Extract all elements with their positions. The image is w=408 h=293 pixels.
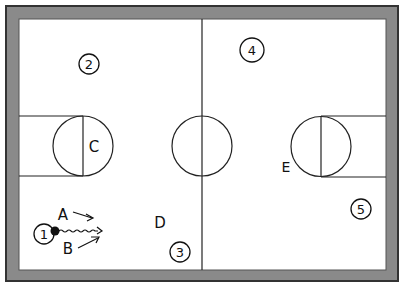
marker-c: C (89, 138, 99, 156)
player-1: 1 (34, 224, 54, 244)
player-1-label: 1 (40, 227, 48, 242)
player-2-label: 2 (85, 57, 93, 72)
player-5-label: 5 (357, 202, 365, 217)
basketball-court-diagram: 1 2 3 4 5 A B C D E (0, 0, 408, 293)
marker-b: B (63, 240, 73, 258)
ball-icon (51, 227, 60, 236)
marker-e: E (282, 159, 291, 175)
marker-a: A (58, 206, 69, 224)
marker-d: D (154, 214, 166, 232)
player-4-label: 4 (248, 43, 256, 58)
player-5: 5 (351, 199, 371, 219)
player-3: 3 (170, 242, 190, 262)
player-2: 2 (79, 54, 99, 74)
player-3-label: 3 (176, 245, 184, 260)
player-4: 4 (240, 38, 264, 62)
